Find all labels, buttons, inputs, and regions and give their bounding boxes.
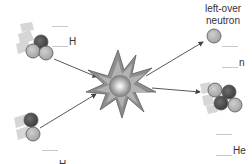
fusion-diagram: H H left-over neutron n He — [0, 0, 252, 164]
neutron-icon — [208, 83, 222, 97]
fusion-starburst-icon — [86, 50, 156, 118]
proton-icon — [24, 113, 38, 127]
neutron-symbol: n — [239, 58, 245, 68]
neutron-icon — [39, 46, 53, 60]
deuterium-symbol: H — [59, 160, 66, 164]
neutron-icon — [228, 98, 242, 112]
tritium-atomic-number-blank[interactable] — [52, 46, 68, 47]
helium-symbol: He — [233, 146, 246, 156]
tritium-symbol: H — [69, 37, 76, 47]
neutron-caption-line1: left-over — [196, 3, 250, 15]
deuterium-mass-number-blank[interactable] — [42, 150, 58, 151]
arrow-icon — [40, 94, 96, 128]
neutron-caption: left-over neutron — [196, 3, 250, 27]
arrow-icon — [54, 59, 97, 77]
arrow-icon — [152, 88, 200, 92]
neutron-icon — [26, 44, 40, 58]
neutron-icon — [207, 29, 221, 43]
neutron-icon — [26, 127, 40, 141]
neutron-caption-line2: neutron — [196, 15, 250, 27]
helium-mass-number-blank[interactable] — [216, 134, 232, 135]
neutron-mass-number-blank[interactable] — [222, 46, 238, 47]
helium-atomic-number-blank[interactable] — [216, 155, 232, 156]
arrow-icon — [146, 42, 203, 76]
proton-icon — [214, 96, 228, 110]
tritium-mass-number-blank[interactable] — [52, 26, 68, 27]
neutron-atomic-number-blank[interactable] — [222, 67, 238, 68]
